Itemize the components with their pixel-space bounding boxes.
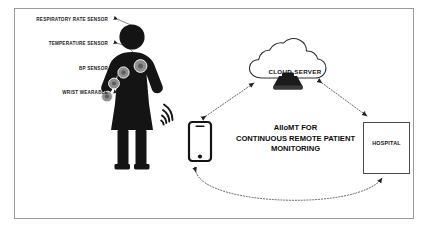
- arrow-phone-cloud: [206, 83, 254, 116]
- sensor-marker-temperature: [118, 67, 129, 78]
- wireless-signal-icon: [161, 105, 172, 125]
- sensor-marker-respiratory: [134, 60, 147, 73]
- label-respiratory-rate-sensor: RESPIRATORY RATE SENSOR: [20, 18, 108, 23]
- arrow-phone-hospital: [196, 172, 382, 200]
- label-wrist-wearable: WRIST WEARABLE: [20, 91, 108, 96]
- system-title: AIIoMT FOR CONTINUOUS REMOTE PATIENT MON…: [213, 123, 378, 155]
- system-title-line1: AIIoMT FOR: [213, 123, 378, 134]
- sensor-marker-bp: [109, 78, 120, 89]
- diagram-canvas: RESPIRATORY RATE SENSOR TEMPERATURE SENS…: [0, 0, 427, 232]
- cloud-server-label: CLOUD SERVER: [252, 68, 338, 75]
- hospital-box: [363, 122, 410, 174]
- system-title-line3: MONITORING: [213, 144, 378, 155]
- smartphone-icon: [189, 122, 211, 161]
- hospital-label: HOSPITAL: [363, 140, 410, 146]
- system-title-line2: CONTINUOUS REMOTE PATIENT: [213, 134, 378, 145]
- label-bp-sensor: BP SENSOR: [20, 67, 108, 72]
- arrow-cloud-hospital: [322, 83, 367, 116]
- diagram-graphics: [0, 0, 427, 232]
- label-temperature-sensor: TEMPERATURE SENSOR: [20, 42, 108, 47]
